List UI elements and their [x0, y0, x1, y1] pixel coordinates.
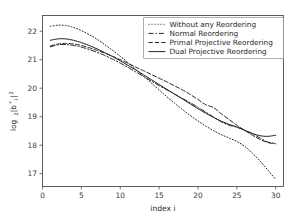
y-tick-label: 20	[28, 84, 38, 93]
line-chart: 051015202530 171819202122 Without any Re…	[0, 0, 296, 221]
x-tick-label: 5	[79, 191, 84, 200]
x-axis-ticks: 051015202530	[40, 187, 281, 201]
y-axis-ticks: 171819202122	[28, 27, 43, 179]
x-tick-label: 0	[40, 191, 45, 200]
chart-legend: Without any ReorderingNormal ReorderingP…	[144, 18, 284, 59]
y-tick-label: 22	[28, 27, 37, 36]
legend-label-3: Dual Projective Reordering	[170, 47, 267, 56]
y-axis-title-part: i	[13, 99, 19, 101]
x-tick-label: 20	[193, 191, 203, 200]
y-tick-label: 17	[28, 169, 38, 178]
x-tick-label: 15	[154, 191, 164, 200]
x-tick-label: 30	[271, 191, 281, 200]
x-tick-label: 25	[232, 191, 242, 200]
y-tick-label: 21	[28, 55, 38, 64]
y-tick-label: 19	[28, 112, 38, 121]
x-axis-title: index i	[150, 204, 175, 213]
y-axis-title-part: log	[9, 119, 18, 131]
chart-figure: 051015202530 171819202122 Without any Re…	[0, 0, 296, 221]
y-axis-title-part: |b	[9, 105, 18, 112]
legend-label-2: Primal Projective Reordering	[170, 38, 273, 47]
y-tick-label: 18	[28, 141, 38, 150]
legend-label-1: Normal Reordering	[170, 29, 239, 38]
y-axis-title: log2|b*i|2	[8, 91, 19, 131]
y-axis-title-part: 2	[8, 91, 14, 94]
x-tick-label: 10	[116, 191, 126, 200]
legend-label-0: Without any Reordering	[170, 20, 257, 29]
